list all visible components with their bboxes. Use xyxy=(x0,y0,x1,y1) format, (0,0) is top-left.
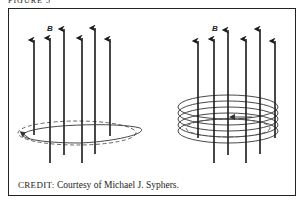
left-panel: B xyxy=(18,24,142,163)
current-loop-back-dashed xyxy=(18,121,136,145)
field-label-b: B xyxy=(212,24,218,33)
right-panel: B xyxy=(178,24,278,163)
field-label-b: B xyxy=(47,24,53,33)
credit-text: Courtesy of Michael J. Syphers. xyxy=(55,180,179,190)
credit-label: CREDIT: xyxy=(18,180,55,190)
image-credit: CREDIT: Courtesy of Michael J. Syphers. xyxy=(18,180,179,190)
magnetic-field-diagram: B B xyxy=(0,0,308,208)
